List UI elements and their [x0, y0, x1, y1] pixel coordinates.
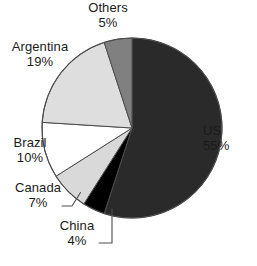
slice-label-china-name: China	[44, 219, 110, 234]
slice-label-argentina: Argentina 19%	[0, 40, 82, 69]
slice-label-us-name: US	[203, 124, 251, 139]
slice-label-canada-name: Canada	[0, 181, 78, 196]
slice-label-brazil-name: Brazil	[0, 136, 60, 151]
slice-label-brazil-value: 10%	[0, 151, 60, 166]
slice-label-others: Others 5%	[63, 1, 153, 30]
slice-label-others-name: Others	[63, 1, 153, 16]
pie-chart-figure: Others 5% Argentina 19% Brazil 10% Canad…	[0, 0, 257, 266]
slice-label-canada-value: 7%	[0, 196, 78, 211]
slice-label-others-value: 5%	[63, 16, 153, 31]
slice-label-canada: Canada 7%	[0, 181, 78, 210]
slice-label-us: US 55%	[203, 124, 251, 153]
slice-label-brazil: Brazil 10%	[0, 136, 60, 165]
slice-label-argentina-value: 19%	[0, 55, 82, 70]
slice-label-china-value: 4%	[44, 234, 110, 249]
slice-label-china: China 4%	[44, 219, 110, 248]
slice-label-argentina-name: Argentina	[0, 40, 82, 55]
slice-label-us-value: 55%	[203, 139, 251, 154]
